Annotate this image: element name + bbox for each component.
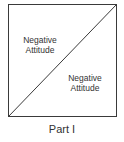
attitude-diagram: Negative Attitude Negative Attitude Part… [0, 0, 124, 142]
diagram-caption: Part I [0, 122, 124, 136]
upper-region-label: Negative Attitude [18, 35, 62, 55]
lower-label-line1: Negative [63, 73, 107, 83]
square-with-diagonal [0, 0, 124, 142]
upper-label-line1: Negative [18, 35, 62, 45]
diagonal-divider [9, 5, 117, 117]
upper-label-line2: Attitude [18, 45, 62, 55]
lower-label-line2: Attitude [63, 83, 107, 93]
lower-region-label: Negative Attitude [63, 73, 107, 93]
